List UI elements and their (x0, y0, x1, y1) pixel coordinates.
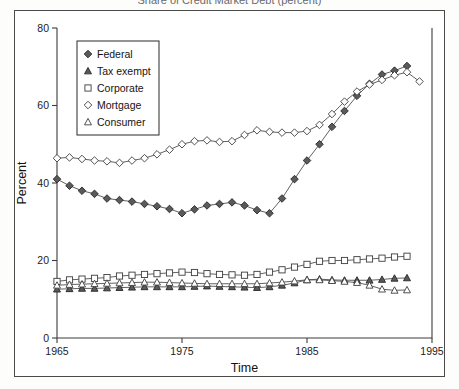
legend-item-label: Consumer (97, 116, 146, 128)
x-tick-label: 1985 (295, 345, 319, 357)
data-point-filled-diamond (203, 202, 211, 210)
data-point-open-diamond (303, 127, 311, 135)
data-point-open-square (304, 261, 310, 267)
x-tick-label: 1995 (420, 345, 444, 357)
data-point-open-diamond (128, 157, 136, 165)
data-point-open-diamond (378, 76, 386, 84)
data-point-open-diamond (228, 137, 236, 145)
data-point-filled-diamond (228, 199, 236, 207)
legend-item-label: Corporate (97, 82, 144, 94)
data-point-open-square (279, 267, 285, 273)
data-point-open-diamond (166, 146, 174, 154)
data-point-open-diamond (416, 78, 424, 86)
data-point-filled-diamond (78, 187, 86, 195)
legend-item-label: Federal (97, 48, 133, 60)
data-point-filled-diamond (153, 202, 161, 210)
legend-item-label: Tax exempt (97, 65, 151, 77)
data-point-open-square (379, 255, 385, 261)
data-point-open-diamond (291, 129, 299, 137)
data-point-open-diamond (178, 140, 186, 148)
data-point-open-diamond (153, 151, 161, 159)
data-point-open-diamond (141, 154, 149, 162)
data-point-open-square (254, 271, 260, 277)
y-tick-label: 40 (37, 177, 49, 189)
data-point-open-diamond (391, 71, 399, 79)
data-point-open-diamond (203, 137, 211, 145)
x-tick-label: 1965 (45, 345, 69, 357)
data-point-filled-diamond (128, 198, 136, 206)
legend-group: FederalTax exemptCorporateMortgageConsum… (77, 41, 159, 135)
x-axis-title: Time (231, 361, 258, 375)
data-point-open-diamond (103, 158, 111, 166)
data-point-open-diamond (278, 129, 286, 137)
y-tick-label: 60 (37, 99, 49, 111)
data-point-open-square (116, 273, 122, 279)
data-point-open-square (354, 257, 360, 263)
data-point-filled-diamond (166, 205, 174, 213)
data-point-open-diamond (216, 138, 224, 146)
data-point-open-square (404, 253, 410, 259)
data-point-open-diamond (191, 137, 199, 145)
figure-canvas: Share of Credit Market Debt (percent) 02… (0, 0, 459, 389)
data-point-filled-diamond (191, 206, 199, 214)
data-point-open-square (216, 271, 222, 277)
y-tick-label: 80 (37, 22, 49, 34)
data-point-open-diamond (116, 159, 124, 167)
legend-item-label: Mortgage (97, 99, 142, 111)
data-point-open-square (329, 257, 335, 263)
data-point-open-square (266, 269, 272, 275)
data-point-open-square (154, 271, 160, 277)
data-point-open-square (129, 272, 135, 278)
data-point-filled-diamond (53, 175, 61, 183)
data-point-filled-diamond (103, 195, 111, 203)
data-point-filled-diamond (303, 157, 311, 165)
data-point-filled-diamond (116, 196, 124, 204)
data-point-open-square (229, 272, 235, 278)
line-chart: 0204060801965197519851995PercentTime Fed… (0, 0, 459, 389)
data-point-filled-diamond (141, 200, 149, 208)
data-point-open-diamond (91, 157, 99, 165)
data-point-open-diamond (66, 154, 74, 162)
data-point-open-square (85, 85, 91, 91)
data-point-filled-diamond (178, 209, 186, 217)
data-point-open-square (391, 254, 397, 260)
data-point-open-diamond (253, 127, 261, 135)
data-point-open-square (141, 271, 147, 277)
data-point-open-diamond (403, 68, 411, 76)
data-point-filled-diamond (253, 206, 261, 214)
data-point-open-square (291, 264, 297, 270)
data-point-open-square (316, 258, 322, 264)
data-point-open-square (204, 271, 210, 277)
data-point-open-diamond (241, 131, 249, 139)
y-axis-title: Percent (15, 161, 29, 205)
data-point-filled-diamond (316, 140, 324, 148)
data-point-open-diamond (78, 155, 86, 163)
data-point-filled-diamond (91, 190, 99, 198)
data-point-open-square (166, 270, 172, 276)
y-tick-label: 20 (37, 254, 49, 266)
data-point-open-square (179, 269, 185, 275)
data-point-open-diamond (266, 128, 274, 136)
data-point-open-square (241, 272, 247, 278)
data-point-filled-diamond (241, 202, 249, 210)
data-point-open-square (191, 269, 197, 275)
data-point-open-square (341, 257, 347, 263)
y-tick-label: 0 (43, 332, 49, 344)
x-tick-label: 1975 (170, 345, 194, 357)
data-point-filled-diamond (66, 182, 74, 190)
data-point-filled-diamond (216, 200, 224, 208)
data-point-filled-diamond (291, 175, 299, 183)
data-point-open-square (366, 256, 372, 262)
data-point-open-diamond (53, 154, 61, 162)
